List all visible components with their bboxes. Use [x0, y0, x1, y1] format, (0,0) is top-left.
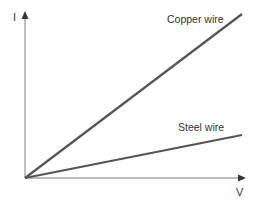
steel-wire-line [25, 135, 242, 178]
y-axis-arrow-icon [22, 11, 29, 19]
x-axis-label: V [236, 186, 244, 198]
copper-wire-line [25, 14, 242, 178]
copper-wire-label: Copper wire [167, 13, 224, 25]
y-axis-label: I [13, 11, 16, 23]
steel-wire-label: Steel wire [178, 121, 224, 133]
x-axis-arrow-icon [238, 175, 246, 182]
iv-graph: I V Copper wire Steel wire [0, 0, 258, 205]
